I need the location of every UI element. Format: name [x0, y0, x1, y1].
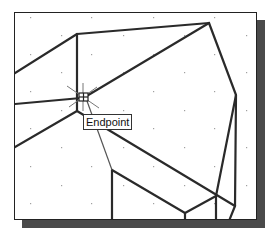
osnap-tooltip: Endpoint	[83, 114, 132, 130]
drawing-viewport[interactable]: Endpoint	[14, 12, 257, 220]
tracking-line	[87, 101, 112, 170]
drawing-canvas[interactable]	[15, 13, 256, 219]
grid-dots	[30, 17, 247, 204]
endpoint-marker-icon	[79, 93, 88, 101]
